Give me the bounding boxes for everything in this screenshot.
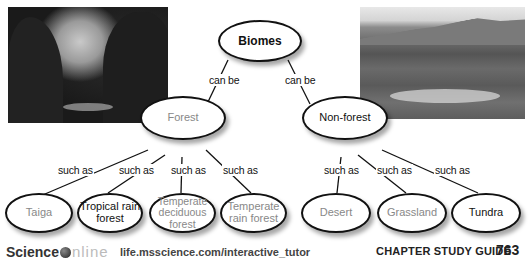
node-desert: Desert xyxy=(301,193,371,233)
node-grassland: Grassland xyxy=(377,193,447,233)
science-online-logo: Sciencenline xyxy=(6,243,109,260)
node-desert-label: Desert xyxy=(320,207,352,219)
node-nonforest-label: Non-forest xyxy=(319,112,370,124)
chapter-study-guide-label: CHAPTER STUDY GUIDE xyxy=(376,245,511,257)
link-label-such-as-tropical: such as xyxy=(118,164,155,176)
page-number: 763 xyxy=(496,242,519,258)
link-label-such-as-temperate-deciduous: such as xyxy=(170,164,207,176)
link-label-such-as-tundra: such as xyxy=(434,164,471,176)
node-biomes: Biomes xyxy=(218,20,302,62)
node-forest: Forest xyxy=(140,96,226,140)
logo-science-text: Science xyxy=(6,244,59,260)
node-tropical-label: Tropical rainforest xyxy=(80,201,140,224)
logo-online-text: nline xyxy=(72,243,109,260)
node-biomes-label: Biomes xyxy=(238,35,281,48)
node-taiga-label: Taiga xyxy=(26,207,52,219)
node-tundra: Tundra xyxy=(451,193,521,233)
node-tropical-rain-forest: Tropical rainforest xyxy=(77,193,143,233)
link-label-such-as-grassland: such as xyxy=(376,164,413,176)
node-forest-label: Forest xyxy=(167,112,198,124)
footer-url-link[interactable]: life.msscience.com/interactive_tutor xyxy=(120,246,310,258)
node-temperate-rain-forest: Temperaterain forest xyxy=(220,193,287,233)
link-label-can-be-nonforest: can be xyxy=(284,74,316,86)
node-tundra-label: Tundra xyxy=(469,207,503,219)
link-label-such-as-desert: such as xyxy=(323,164,360,176)
link-label-such-as-temperate-rain: such as xyxy=(222,164,259,176)
node-temperate-deciduous-label: Temperatedeciduousforest xyxy=(158,196,208,229)
link-label-such-as-taiga: such as xyxy=(57,164,94,176)
node-nonforest: Non-forest xyxy=(302,96,388,140)
node-taiga: Taiga xyxy=(5,193,73,233)
link-label-can-be-forest: can be xyxy=(208,74,240,86)
node-temperate-rain-label: Temperaterain forest xyxy=(228,201,280,224)
globe-icon xyxy=(60,247,71,258)
node-grassland-label: Grassland xyxy=(387,207,437,219)
node-temperate-deciduous-forest: Temperatedeciduousforest xyxy=(149,193,216,233)
